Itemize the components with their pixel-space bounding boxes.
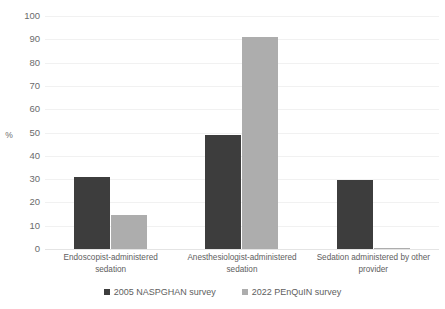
y-tick-label: 0	[14, 244, 40, 254]
category-label: Endoscopist-administeredsedation	[41, 252, 180, 275]
bar	[205, 135, 241, 249]
y-tick-label: 100	[14, 11, 40, 21]
legend-swatch-icon	[242, 289, 248, 295]
y-tick-label: 60	[14, 104, 40, 114]
category-label-line: sedation	[41, 264, 180, 276]
bar	[374, 248, 410, 249]
y-tick-label: 40	[14, 151, 40, 161]
category-label: Sedation administered by otherprovider	[304, 252, 443, 275]
x-axis-category-labels: Endoscopist-administeredsedationAnesthes…	[45, 252, 439, 280]
y-tick-label: 70	[14, 81, 40, 91]
bar-group	[45, 16, 176, 249]
y-tick-label: 30	[14, 174, 40, 184]
bar	[111, 215, 147, 249]
bar-series-container	[45, 16, 439, 249]
bar	[337, 180, 373, 249]
bar-group	[308, 16, 439, 249]
y-tick-label: 20	[14, 197, 40, 207]
legend-label: 2022 PEnQuIN survey	[252, 287, 342, 297]
gridline-0	[45, 249, 439, 250]
category-label-line: Endoscopist-administered	[41, 252, 180, 264]
legend-label: 2005 NASPGHAN survey	[114, 287, 216, 297]
bar-chart: % 1009080706050403020100 Endoscopist-adm…	[0, 0, 445, 309]
bar-group	[176, 16, 307, 249]
y-tick-label: 10	[14, 221, 40, 231]
plot-area	[45, 16, 439, 249]
category-label-line: Anesthesiologist-administered	[172, 252, 311, 264]
y-tick-label: 90	[14, 34, 40, 44]
category-label-line: provider	[304, 264, 443, 276]
y-tick-label: 50	[14, 128, 40, 138]
chart-legend: 2005 NASPGHAN survey2022 PEnQuIN survey	[0, 287, 445, 297]
bar	[242, 37, 278, 249]
legend-entry[interactable]: 2005 NASPGHAN survey	[104, 287, 216, 297]
category-label-line: Sedation administered by other	[304, 252, 443, 264]
category-label: Anesthesiologist-administeredsedation	[172, 252, 311, 275]
category-label-line: sedation	[172, 264, 311, 276]
y-tick-label: 80	[14, 58, 40, 68]
y-axis-tick-labels: 1009080706050403020100	[12, 0, 40, 309]
legend-swatch-icon	[104, 289, 110, 295]
legend-entry[interactable]: 2022 PEnQuIN survey	[242, 287, 342, 297]
bar	[74, 177, 110, 249]
